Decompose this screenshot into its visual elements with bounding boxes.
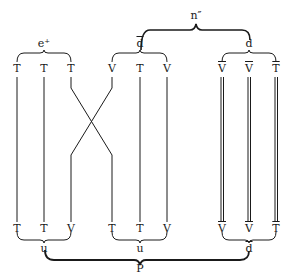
label-u-left: u (40, 243, 47, 254)
col7-top: V (218, 63, 226, 74)
brace-p (45, 250, 249, 265)
col5-top: T (136, 63, 143, 74)
col8-bottom: V (245, 223, 253, 234)
brace-d-top (222, 50, 276, 62)
col7-bottom: V (218, 223, 226, 234)
col4-bottom: T (108, 223, 115, 234)
label-u-mid: u (136, 243, 143, 254)
col9-top: T (272, 63, 279, 74)
col5-bottom: T (136, 223, 143, 234)
label-p: P (136, 263, 143, 273)
col1-top: T (13, 63, 20, 74)
col1-bottom: T (13, 223, 20, 234)
label-e-plus: e⁺ (38, 38, 50, 49)
col4-top: V (108, 63, 116, 74)
col2-top: T (40, 63, 47, 74)
label-d-bar-top: d (136, 38, 143, 49)
label-d-bar-bottom: d (245, 243, 252, 254)
brace-e-plus (17, 50, 71, 62)
col6-top: V (163, 63, 171, 74)
col2-bottom: T (40, 223, 47, 234)
label-d-top: d (245, 38, 252, 49)
col6-bottom: V (163, 223, 171, 234)
col8-top: V (245, 63, 253, 74)
col3-bottom: V (67, 223, 75, 234)
brace-d-bar-top (112, 50, 167, 62)
brace-n-double-prime (141, 24, 250, 50)
col3-top: T (67, 63, 74, 74)
label-n-double-prime: n″ (190, 10, 201, 21)
col9-bottom: T (272, 223, 279, 234)
